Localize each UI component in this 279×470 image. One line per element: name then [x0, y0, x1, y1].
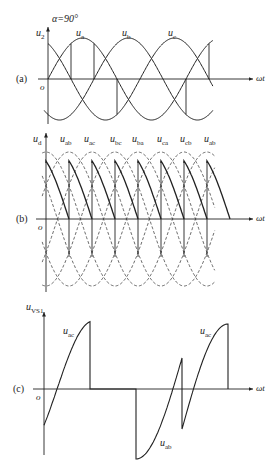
- label-uba: uba: [132, 134, 144, 147]
- label-ubc: ubc: [110, 134, 122, 147]
- alpha-annotation: α=90°: [52, 14, 78, 24]
- label-uab-1: uab: [60, 134, 72, 147]
- label-uc: uc: [168, 28, 176, 41]
- panel-b-x-label: ωt: [256, 214, 265, 223]
- panel-c-label: (c): [13, 384, 24, 394]
- panel-c-y-label: uVS1: [26, 302, 43, 315]
- panel-b-commutation-lines: [69, 161, 207, 257]
- panel-c-x-label: ωt: [256, 384, 265, 393]
- panel-a: [38, 27, 253, 124]
- panel-c-thyristor-voltage: [44, 322, 228, 459]
- label-ucb: ucb: [180, 134, 192, 147]
- panel-b: [36, 133, 253, 292]
- label-uab-2: uab: [204, 134, 216, 147]
- waveform-figure: [0, 0, 279, 470]
- label-uac: uac: [84, 134, 95, 147]
- panel-a-label: (a): [16, 74, 27, 84]
- label-uac-1: uac: [63, 326, 74, 339]
- panel-b-y-label: ud: [33, 134, 42, 147]
- panel-b-origin: o: [38, 223, 43, 232]
- panel-a-y-label: u2: [36, 28, 45, 41]
- label-ub: ub: [122, 28, 131, 41]
- panel-b-label: (b): [16, 214, 28, 224]
- label-uab: uab: [160, 438, 172, 451]
- label-ua: ua: [76, 28, 84, 41]
- panel-a-x-label: ωt: [256, 74, 265, 83]
- label-uac-2: uac: [200, 326, 211, 339]
- panel-a-origin: o: [40, 83, 45, 92]
- label-uca: uca: [157, 134, 168, 147]
- panel-c-origin: o: [36, 393, 41, 402]
